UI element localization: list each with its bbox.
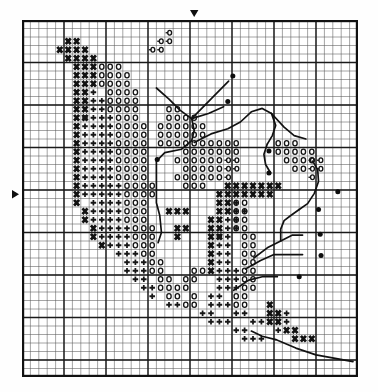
left-center-arrow bbox=[12, 190, 19, 198]
top-center-arrow bbox=[190, 10, 198, 17]
center-markers bbox=[0, 0, 378, 392]
cross-stitch-chart bbox=[0, 0, 378, 392]
